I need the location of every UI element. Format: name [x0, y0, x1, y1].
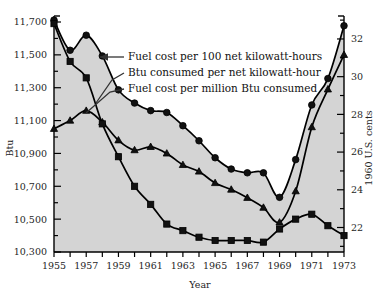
bottom-tick-label: 1967	[235, 260, 259, 271]
data-point-circle	[212, 154, 219, 161]
data-point-circle	[276, 194, 283, 201]
data-point-square	[260, 239, 266, 245]
left-tick-label: 11,100	[14, 115, 47, 126]
data-point-circle	[228, 166, 235, 173]
data-point-square	[51, 21, 57, 27]
left-tick-label: 11,500	[14, 49, 47, 60]
data-point-circle	[308, 102, 315, 109]
bottom-axis-title: Year	[188, 279, 211, 290]
left-tick-label: 10,900	[14, 148, 47, 159]
data-point-circle	[244, 170, 251, 177]
data-point-circle	[83, 32, 90, 39]
data-point-square	[244, 237, 250, 243]
data-point-square	[341, 232, 347, 238]
data-point-circle	[131, 100, 138, 107]
data-point-circle	[196, 137, 203, 144]
bottom-tick-label: 1965	[203, 260, 227, 271]
data-point-circle	[180, 122, 187, 129]
data-point-square	[228, 237, 234, 243]
left-tick-label: 10,300	[14, 246, 47, 257]
data-point-square	[212, 237, 218, 243]
bottom-axis-ticks	[54, 252, 344, 257]
right-tick-label: 32	[351, 33, 363, 44]
data-point-square	[196, 234, 202, 240]
data-point-square	[83, 75, 89, 81]
right-tick-label: 24	[351, 184, 363, 195]
data-point-circle	[67, 47, 74, 54]
left-tick-label: 11,300	[14, 82, 47, 93]
bottom-tick-label: 1955	[42, 260, 66, 271]
data-point-circle	[292, 156, 299, 163]
right-tick-label: 22	[351, 222, 363, 233]
bottom-tick-label: 1961	[139, 260, 163, 271]
data-point-circle	[163, 109, 170, 116]
fuel-cost-btu-line-chart: 10,30010,50010,70010,90011,10011,30011,5…	[0, 0, 383, 298]
data-point-square	[115, 154, 121, 160]
data-point-square	[131, 183, 137, 189]
bottom-tick-label: 1963	[171, 260, 195, 271]
left-tick-label: 11,700	[14, 16, 47, 27]
bottom-tick-label: 1959	[106, 260, 130, 271]
bottom-tick-label: 1957	[74, 260, 98, 271]
right-tick-label: 28	[351, 109, 363, 120]
data-point-square	[309, 211, 315, 217]
data-point-square	[99, 121, 105, 127]
bottom-tick-label: 1973	[332, 260, 356, 271]
bottom-tick-label: 1969	[267, 260, 291, 271]
data-point-square	[164, 221, 170, 227]
legend-item-fuel-cost-per-million-btu: Fuel cost per million Btu consumed	[128, 82, 318, 94]
left-axis-tick-labels: 10,30010,50010,70010,90011,10011,30011,5…	[14, 16, 47, 257]
left-tick-label: 10,700	[14, 181, 47, 192]
bottom-axis-tick-labels: 1955195719591961196319651967196919711973	[42, 260, 356, 271]
data-point-circle	[325, 75, 332, 82]
data-point-circle	[147, 107, 154, 114]
bottom-tick-label: 1971	[300, 260, 324, 271]
data-point-square	[293, 216, 299, 222]
right-axis-title: 1960 U.S. cents	[363, 110, 374, 185]
left-axis-title: Btu	[4, 140, 15, 157]
data-point-square	[180, 228, 186, 234]
data-point-square	[148, 201, 154, 207]
data-point-circle	[341, 22, 348, 29]
right-axis-tick-labels: 222426283032	[351, 33, 363, 233]
data-point-square	[276, 226, 282, 232]
data-point-square	[325, 223, 331, 229]
legend-item-fuel-cost-per-100-kwh: Fuel cost per 100 net kilowatt-hours	[128, 50, 322, 62]
data-point-circle	[260, 170, 267, 177]
right-tick-label: 26	[351, 146, 363, 157]
right-tick-label: 30	[351, 71, 363, 82]
left-tick-label: 10,500	[14, 214, 47, 225]
data-point-square	[67, 58, 73, 64]
chart-container: 10,30010,50010,70010,90011,10011,30011,5…	[0, 0, 383, 298]
legend-item-btu-per-kwh: Btu consumed per net kilowatt-hour	[128, 66, 322, 78]
